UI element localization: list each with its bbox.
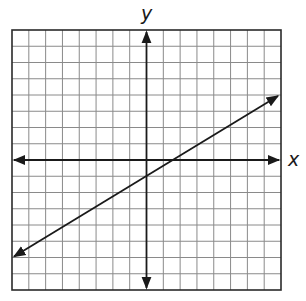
- coordinate-plane: y x: [0, 0, 306, 301]
- x-axis-label: x: [287, 148, 300, 170]
- y-axis-label: y: [140, 2, 153, 24]
